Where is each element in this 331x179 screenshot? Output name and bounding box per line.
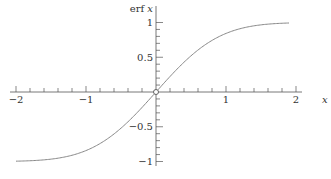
x-tick-label: 2 [293, 94, 299, 105]
y-axis-label: erf x [130, 3, 154, 14]
y-tick-label: 0.5 [137, 52, 153, 63]
y-tick-label: −0.5 [129, 121, 153, 132]
x-axis-label: x [322, 94, 328, 105]
x-tick-label: −1 [79, 94, 94, 105]
y-tick-label: 1 [147, 17, 153, 28]
y-tick-label: −1 [138, 156, 153, 167]
x-tick-label: −2 [9, 94, 24, 105]
origin-open-circle [154, 90, 159, 95]
x-tick-label: 1 [223, 94, 229, 105]
axes [10, 6, 302, 166]
erf-chart: −2−11210.5−0.5−1 x erf x [0, 0, 331, 179]
